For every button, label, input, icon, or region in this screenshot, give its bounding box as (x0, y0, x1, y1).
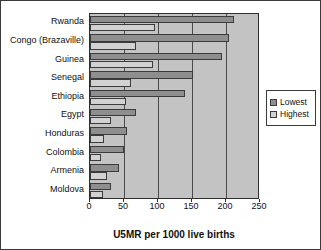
x-tick-label: 150 (183, 201, 198, 211)
chart-legend: LowestHighest (266, 90, 316, 126)
bar-highest (90, 61, 153, 68)
category-label: Rwanda (51, 16, 84, 26)
bar-group (90, 33, 258, 52)
bar-highest (90, 79, 131, 86)
bar-lowest (90, 146, 124, 153)
legend-item-highest[interactable]: Highest (270, 109, 312, 119)
bar-group (90, 51, 258, 70)
bar-group (90, 107, 258, 126)
bar-highest (90, 154, 101, 161)
category-axis-labels: RwandaCongo (Brazaville)GuineaSenegalEth… (1, 13, 87, 199)
category-label: Ethiopia (51, 91, 84, 101)
bar-lowest (90, 53, 222, 60)
bar-group (90, 88, 258, 107)
category-label: Honduras (45, 128, 84, 138)
bar-group (90, 126, 258, 145)
bar-highest (90, 172, 107, 179)
plot-area (89, 13, 259, 199)
bar-group (90, 181, 258, 200)
bar-group (90, 14, 258, 33)
bar-highest (90, 24, 155, 31)
category-label: Armenia (50, 165, 84, 175)
bar-group (90, 144, 258, 163)
legend-swatch-icon (270, 111, 277, 118)
legend-swatch-icon (270, 99, 277, 106)
x-tick-label: 100 (149, 201, 164, 211)
bar-lowest (90, 90, 185, 97)
legend-item-lowest[interactable]: Lowest (270, 97, 312, 107)
x-tick-label: 250 (251, 201, 266, 211)
bar-lowest (90, 183, 111, 190)
bar-highest (90, 191, 103, 198)
category-label: Guinea (55, 54, 84, 64)
bar-lowest (90, 71, 193, 78)
bar-group (90, 163, 258, 182)
bar-lowest (90, 164, 119, 171)
bar-lowest (90, 109, 136, 116)
x-tick-label: 50 (118, 201, 128, 211)
bar-lowest (90, 34, 229, 41)
bar-highest (90, 117, 111, 124)
chart-figure: RwandaCongo (Brazaville)GuineaSenegalEth… (0, 0, 321, 250)
legend-label: Lowest (280, 97, 307, 107)
bar-lowest (90, 127, 127, 134)
bar-group (90, 70, 258, 89)
category-label: Colombia (46, 147, 84, 157)
category-label: Congo (Brazaville) (10, 35, 84, 45)
bar-lowest (90, 16, 234, 23)
bar-highest (90, 42, 136, 49)
category-label: Moldova (50, 184, 84, 194)
x-tick-label: 0 (86, 201, 91, 211)
legend-label: Highest (280, 109, 309, 119)
bar-highest (90, 98, 126, 105)
category-label: Senegal (51, 72, 84, 82)
x-tick-label: 200 (217, 201, 232, 211)
bar-highest (90, 135, 104, 142)
category-label: Egypt (61, 109, 84, 119)
x-axis-tick-labels: 050100150200250 (1, 201, 321, 215)
x-axis-title: U5MR per 1000 live births (89, 229, 259, 240)
